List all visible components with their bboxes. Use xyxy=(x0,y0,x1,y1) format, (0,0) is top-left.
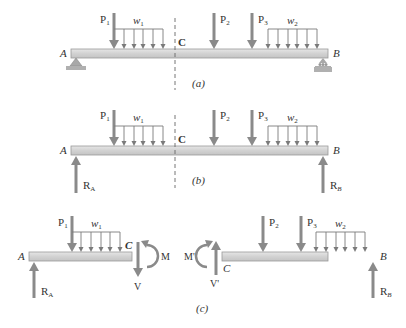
end-label-a: A xyxy=(59,144,67,156)
section-label-c: C xyxy=(223,262,231,274)
point-load-p3: P3 xyxy=(247,109,268,146)
p2-label: P2 xyxy=(220,13,230,27)
distributed-load-w1: w1 xyxy=(114,14,166,49)
moment-m-icon: M xyxy=(141,240,170,267)
moment-m-prime-icon: M' xyxy=(184,240,213,267)
end-label-b: B xyxy=(333,144,340,156)
p3-label: P3 xyxy=(258,13,268,27)
rb-label: RB xyxy=(380,285,392,299)
point-load-p2: P2 xyxy=(209,13,230,49)
point-load-p3: P3 xyxy=(296,216,317,252)
distributed-load-w1: w1 xyxy=(72,217,123,252)
caption-c: (c) xyxy=(196,302,209,315)
free-body-right: P2 P3 w2 B C RB xyxy=(184,216,392,299)
section-label-c: C xyxy=(178,133,186,145)
section-label-c: C xyxy=(125,239,133,251)
shear-force-v-prime: V' xyxy=(210,241,221,289)
panel-a: P1 w1 C P2 P3 xyxy=(59,13,340,90)
beam xyxy=(71,146,328,155)
pin-support-icon xyxy=(66,58,86,70)
reaction-ra: RA xyxy=(29,262,53,299)
w1-label: w1 xyxy=(133,14,144,28)
p3-label: P3 xyxy=(258,109,268,123)
point-load-p1: P1 xyxy=(100,109,119,146)
panel-c: P1 w1 A C RA V xyxy=(17,216,392,315)
rb-label: RB xyxy=(330,179,342,193)
end-label-a: A xyxy=(59,47,67,59)
beam-segment-ac xyxy=(29,252,132,261)
point-load-p3: P3 xyxy=(247,13,268,49)
reaction-rb: RB xyxy=(318,156,342,193)
p3-label: P3 xyxy=(307,216,317,230)
section-label-c: C xyxy=(178,36,186,48)
m-label: M xyxy=(161,251,170,262)
free-body-left: P1 w1 A C RA V xyxy=(17,216,170,299)
beam xyxy=(71,49,328,58)
w1-label: w1 xyxy=(133,111,144,125)
caption-b: (b) xyxy=(192,174,205,187)
distributed-load-w2: w2 xyxy=(314,217,368,252)
w2-label: w2 xyxy=(287,111,298,125)
p2-label: P2 xyxy=(269,216,279,230)
point-load-p2: P2 xyxy=(209,109,230,146)
m-prime-label: M' xyxy=(184,251,195,262)
end-label-b: B xyxy=(380,250,387,262)
end-label-b: B xyxy=(333,47,340,59)
beam-segment-cb xyxy=(222,252,328,261)
end-label-a: A xyxy=(17,250,25,262)
point-load-p1: P1 xyxy=(58,216,77,252)
w2-label: w2 xyxy=(335,217,346,231)
distributed-load-w1: w1 xyxy=(114,111,166,146)
ra-label: RA xyxy=(41,285,53,299)
roller-support-icon xyxy=(314,58,332,72)
shear-force-v: V xyxy=(133,242,143,292)
p1-label: P1 xyxy=(58,216,68,230)
beam-free-body-diagram: P1 w1 C P2 P3 xyxy=(0,0,406,328)
v-label: V xyxy=(134,281,142,292)
p1-label: P1 xyxy=(100,109,110,123)
v-prime-label: V' xyxy=(210,278,219,289)
panel-b: P1 w1 C P2 P3 xyxy=(59,109,342,193)
w2-label: w2 xyxy=(287,14,298,28)
distributed-load-w2: w2 xyxy=(266,111,320,146)
point-load-p2: P2 xyxy=(258,216,279,252)
ra-label: RA xyxy=(83,179,95,193)
distributed-load-w2: w2 xyxy=(266,14,320,49)
p2-label: P2 xyxy=(220,109,230,123)
reaction-ra: RA xyxy=(71,156,95,193)
point-load-p1: P1 xyxy=(100,13,119,49)
w1-label: w1 xyxy=(91,217,102,231)
caption-a: (a) xyxy=(192,77,205,90)
p1-label: P1 xyxy=(100,13,110,27)
reaction-rb: RB xyxy=(368,262,392,299)
